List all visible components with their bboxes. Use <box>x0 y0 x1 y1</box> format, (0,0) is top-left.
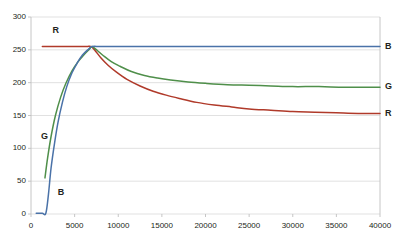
series-label-R-right: R <box>385 108 392 118</box>
series-label-B-right: B <box>385 41 392 51</box>
chart-container: 050100150200250300 050001000015000200002… <box>0 0 404 249</box>
chart-plot-area <box>0 0 404 249</box>
x-tick-20000: 20000 <box>186 221 226 230</box>
series-label-G-left: G <box>41 131 48 141</box>
series-label-R-left: R <box>52 25 59 35</box>
series-line-R <box>42 46 380 113</box>
x-tick-30000: 30000 <box>273 221 313 230</box>
series-line-B <box>36 46 380 214</box>
x-tick-40000: 40000 <box>360 221 400 230</box>
y-tick-200: 200 <box>0 78 26 87</box>
x-tick-25000: 25000 <box>229 221 269 230</box>
series-label-G-right: G <box>385 81 392 91</box>
y-tick-250: 250 <box>0 45 26 54</box>
y-tick-300: 300 <box>0 12 26 21</box>
y-tick-150: 150 <box>0 111 26 120</box>
x-tick-35000: 35000 <box>316 221 356 230</box>
x-tick-10000: 10000 <box>98 221 138 230</box>
series-lines <box>36 46 380 215</box>
y-tick-0: 0 <box>0 209 26 218</box>
series-label-B-left: B <box>58 187 65 197</box>
x-tick-15000: 15000 <box>142 221 182 230</box>
y-tick-50: 50 <box>0 176 26 185</box>
y-tick-100: 100 <box>0 143 26 152</box>
x-tick-5000: 5000 <box>55 221 95 230</box>
x-tick-0: 0 <box>11 221 51 230</box>
